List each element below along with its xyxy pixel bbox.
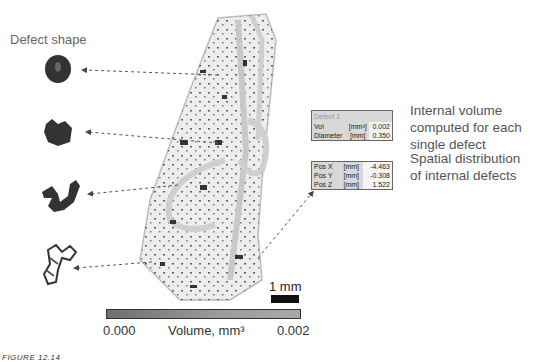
vol-label: Vol — [312, 122, 346, 131]
row-pos-y: Pos Y [mm] -0.308 — [312, 171, 392, 180]
figure-caption: FIGURE 12.14 — [2, 353, 60, 362]
pos-x-label: Pos X — [312, 162, 339, 171]
pos-x-unit: [mm] — [339, 162, 363, 171]
colorbar-title: Volume, mm³ — [168, 323, 245, 338]
part-3d-body — [140, 14, 276, 300]
row-diameter: Diameter [mm] 0.350 — [312, 131, 392, 140]
pos-z-value: 1.522 — [363, 180, 392, 189]
pos-x-value: -4.463 — [363, 162, 392, 171]
vol-unit: [mm³] — [346, 122, 369, 131]
annotation-spatial-distribution: Spatial distribution of internal defects — [410, 150, 520, 184]
diameter-unit: [mm] — [346, 131, 369, 140]
vol-value: 0.002 — [369, 122, 392, 131]
scale-label: 1 mm — [269, 279, 302, 294]
volume-colorbar — [106, 309, 301, 319]
colorbar-max: 0.002 — [277, 323, 310, 338]
defect-shape-complex-icon — [44, 245, 76, 284]
defect-title: Defect 1 — [312, 111, 392, 122]
pos-z-label: Pos Z — [312, 180, 339, 189]
pos-z-unit: [mm] — [339, 180, 363, 189]
row-pos-x: Pos X [mm] -4.463 — [312, 162, 392, 171]
defect-shape-irregular-icon — [44, 119, 72, 146]
defect-info-panel-position: Pos X [mm] -4.463 Pos Y [mm] -0.308 Pos … — [311, 161, 393, 190]
pos-y-label: Pos Y — [312, 171, 339, 180]
pos-y-value: -0.308 — [363, 171, 392, 180]
scale-bar — [271, 295, 299, 303]
annotation-internal-volume: Internal volume computed for each single… — [410, 102, 522, 153]
defect-info-panel-volume: Defect 1 Vol [mm³] 0.002 Diameter [mm] 0… — [311, 110, 393, 141]
row-pos-z: Pos Z [mm] 1.522 — [312, 180, 392, 189]
diameter-label: Diameter — [312, 131, 346, 140]
diameter-value: 0.350 — [369, 131, 392, 140]
row-vol: Vol [mm³] 0.002 — [312, 122, 392, 131]
defect-shape-sphere-icon — [45, 55, 71, 83]
colorbar-min: 0.000 — [103, 323, 136, 338]
defect-shape-branched-icon — [42, 180, 80, 212]
pos-y-unit: [mm] — [339, 171, 363, 180]
